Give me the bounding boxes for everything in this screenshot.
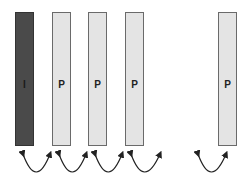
curved-arrows [0,0,248,183]
bidirectional-arrow [23,154,50,172]
bidirectional-arrow [95,154,122,172]
bidirectional-arrow [198,154,226,172]
bidirectional-arrow [59,154,86,172]
bidirectional-arrow [131,154,160,172]
